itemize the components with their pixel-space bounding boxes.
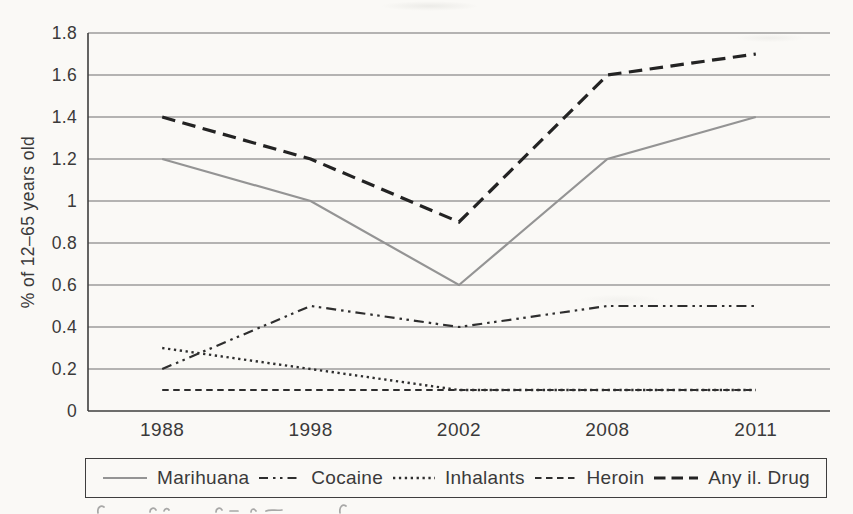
marihuana-line-sample-icon bbox=[102, 474, 148, 482]
inhalants-line-sample-icon bbox=[392, 474, 436, 482]
y-tick-label: 0.8 bbox=[52, 233, 77, 253]
x-tick-label: 2002 bbox=[437, 419, 481, 440]
y-tick-label: 0 bbox=[67, 401, 77, 421]
legend-item-cocaine: Cocaine bbox=[258, 467, 383, 489]
y-tick-label: 0.6 bbox=[52, 275, 77, 295]
heroin-line-sample-icon bbox=[534, 474, 578, 482]
y-tick-label: 1.2 bbox=[52, 149, 77, 169]
legend-item-inhalants: Inhalants bbox=[392, 467, 525, 489]
x-tick-label: 2008 bbox=[585, 419, 629, 440]
x-tick-label: 1998 bbox=[288, 419, 332, 440]
legend-label-heroin: Heroin bbox=[587, 467, 645, 489]
y-tick-label: 1 bbox=[67, 191, 77, 211]
x-tick-label: 1988 bbox=[140, 419, 184, 440]
y-tick-label: 1.8 bbox=[52, 23, 77, 43]
legend-label-cocaine: Cocaine bbox=[311, 467, 383, 489]
legend-item-heroin: Heroin bbox=[534, 467, 645, 489]
chart-legend: Marihuana Cocaine Inhalants Heroin Any i… bbox=[85, 458, 827, 498]
any-illegal-drug-line-sample-icon bbox=[653, 474, 699, 482]
scanned-chart-page: % of 12–65 years old 00.20.40.60.811.21.… bbox=[0, 0, 853, 514]
legend-label-any-illegal-drug: Any il. Drug bbox=[708, 467, 810, 489]
line-chart: % of 12–65 years old 00.20.40.60.811.21.… bbox=[0, 0, 853, 452]
cocaine-line-sample-icon bbox=[258, 474, 302, 482]
legend-label-inhalants: Inhalants bbox=[445, 467, 525, 489]
y-tick-label: 0.4 bbox=[52, 317, 77, 337]
legend-item-any-illegal-drug: Any il. Drug bbox=[653, 467, 810, 489]
x-tick-label: 2011 bbox=[734, 419, 777, 440]
y-tick-label: 0.2 bbox=[52, 359, 77, 379]
y-axis-title: % of 12–65 years old bbox=[18, 136, 38, 308]
series-line-any-il-drug bbox=[162, 54, 756, 222]
legend-item-marihuana: Marihuana bbox=[102, 467, 249, 489]
legend-label-marihuana: Marihuana bbox=[157, 467, 249, 489]
cropped-caption-fragment bbox=[88, 503, 368, 514]
y-tick-label: 1.4 bbox=[52, 107, 77, 127]
y-tick-label: 1.6 bbox=[52, 65, 77, 85]
